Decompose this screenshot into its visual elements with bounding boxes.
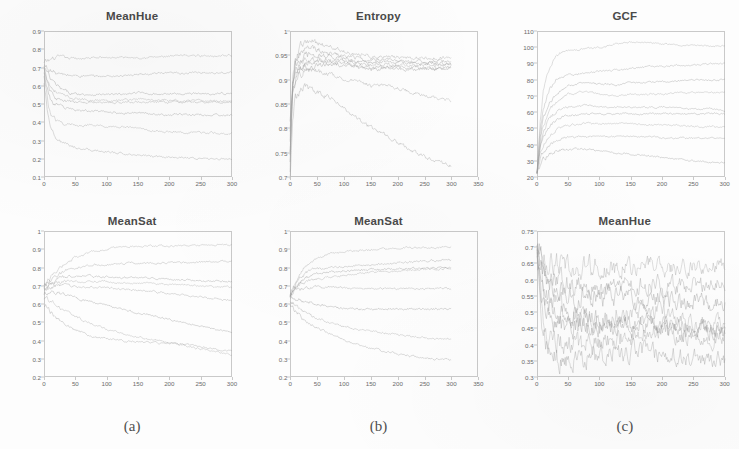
y-tick-mark	[287, 249, 290, 250]
x-tick-mark	[138, 177, 139, 180]
x-tick-mark	[662, 377, 663, 380]
x-tick-mark	[537, 377, 538, 380]
series-line	[290, 296, 451, 310]
series-line	[44, 83, 232, 160]
y-tick-mark	[41, 249, 44, 250]
y-tick-mark	[287, 358, 290, 359]
x-tick-mark	[107, 177, 108, 180]
series-line	[537, 136, 725, 173]
series-line	[290, 267, 451, 297]
x-tick-mark	[537, 177, 538, 180]
plot-area: 0.20.30.40.50.60.70.80.91050100150200250…	[290, 231, 478, 377]
x-tick-mark	[725, 177, 726, 180]
plot-area: 0.30.350.40.450.50.550.60.650.70.7505010…	[537, 231, 725, 377]
x-tick-mark	[201, 377, 202, 380]
x-tick-mark	[317, 177, 318, 180]
y-tick-mark	[534, 295, 537, 296]
x-tick-mark	[425, 177, 426, 180]
panel-gcf-top: GCF 203040506070809010011005010015020025…	[493, 0, 739, 205]
y-tick-mark	[534, 47, 537, 48]
y-tick-mark	[534, 344, 537, 345]
y-tick-mark	[41, 49, 44, 50]
x-tick-mark	[317, 377, 318, 380]
figure-canvas: MeanHue 0.10.20.30.40.50.60.70.80.905010…	[0, 0, 739, 449]
subfigure-caption-a: (a)	[0, 418, 246, 435]
plot-area: 0.70.750.80.850.90.951050100150200250300…	[290, 31, 478, 177]
series-line	[44, 54, 232, 63]
x-tick-mark	[169, 377, 170, 380]
x-tick-mark	[451, 377, 452, 380]
y-tick-mark	[41, 358, 44, 359]
y-tick-mark	[287, 79, 290, 80]
x-tick-mark	[371, 377, 372, 380]
series-line	[290, 68, 451, 155]
x-tick-mark	[107, 377, 108, 380]
series-line	[44, 76, 232, 134]
x-tick-mark	[232, 177, 233, 180]
y-tick-mark	[287, 231, 290, 232]
series-line	[44, 244, 232, 286]
y-tick-mark	[41, 140, 44, 141]
x-tick-mark	[425, 377, 426, 380]
series-line	[44, 66, 232, 96]
y-tick-mark	[534, 247, 537, 248]
y-tick-mark	[41, 231, 44, 232]
series-line	[44, 291, 232, 333]
series-line	[44, 64, 232, 77]
series-line	[290, 259, 451, 296]
panel-meansat-bottom-b: MeanSat 0.20.30.40.50.60.70.80.910501001…	[246, 205, 492, 449]
x-tick-mark	[290, 377, 291, 380]
series-line	[290, 285, 451, 297]
series-line	[290, 267, 451, 296]
x-tick-mark	[725, 377, 726, 380]
y-tick-mark	[287, 304, 290, 305]
y-tick-mark	[41, 122, 44, 123]
y-tick-mark	[41, 340, 44, 341]
series-line	[290, 52, 451, 152]
series-line	[537, 244, 725, 313]
y-tick-mark	[41, 85, 44, 86]
y-tick-mark	[41, 31, 44, 32]
series-line	[290, 84, 451, 180]
y-tick-mark	[287, 340, 290, 341]
y-tick-mark	[534, 360, 537, 361]
y-tick-mark	[534, 79, 537, 80]
line-series-group	[44, 31, 232, 177]
x-tick-mark	[478, 177, 479, 180]
line-series-group	[290, 231, 478, 377]
y-tick-mark	[534, 160, 537, 161]
y-tick-mark	[41, 267, 44, 268]
line-series-group	[290, 31, 478, 177]
line-series-group	[537, 31, 725, 177]
y-tick-mark	[534, 31, 537, 32]
x-tick-mark	[599, 177, 600, 180]
x-tick-mark	[371, 177, 372, 180]
panel-title: MeanHue	[0, 10, 246, 22]
x-tick-mark	[693, 177, 694, 180]
y-tick-mark	[534, 144, 537, 145]
x-tick-mark	[344, 177, 345, 180]
panel-grid: MeanHue 0.10.20.30.40.50.60.70.80.905010…	[0, 0, 739, 449]
x-tick-mark	[398, 377, 399, 380]
x-tick-mark	[344, 377, 345, 380]
plot-area: 0.10.20.30.40.50.60.70.80.90501001502002…	[44, 31, 232, 177]
panel-title: Entropy	[246, 10, 492, 22]
x-tick-mark	[169, 177, 170, 180]
y-tick-mark	[534, 112, 537, 113]
panel-title: MeanSat	[246, 215, 492, 227]
panel-meansat-bottom-a: MeanSat 0.20.30.40.50.60.70.80.910501001…	[0, 205, 246, 449]
x-tick-mark	[44, 377, 45, 380]
y-tick-mark	[534, 95, 537, 96]
y-tick-mark	[41, 322, 44, 323]
plot-area: 2030405060708090100110050100150200250300	[537, 31, 725, 177]
x-tick-mark	[75, 377, 76, 380]
x-tick-mark	[693, 377, 694, 380]
y-tick-mark	[287, 31, 290, 32]
plot-area: 0.20.30.40.50.60.70.80.91050100150200250…	[44, 231, 232, 377]
x-tick-mark	[451, 177, 452, 180]
y-tick-mark	[41, 67, 44, 68]
series-line	[44, 260, 232, 285]
series-line	[44, 73, 232, 116]
series-line	[537, 245, 725, 279]
series-line	[537, 122, 725, 173]
